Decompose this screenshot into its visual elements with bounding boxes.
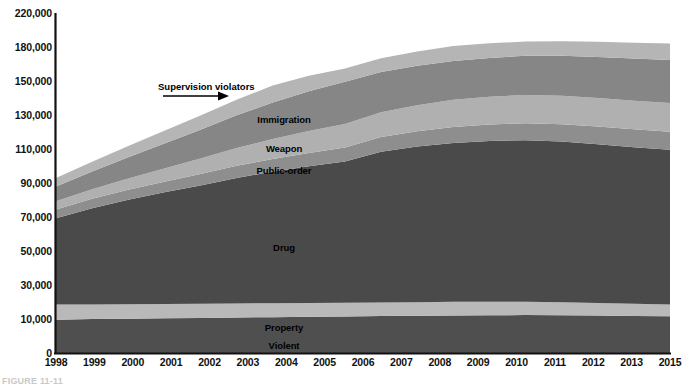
x-axis-tick-label: 2011 [535,357,575,368]
x-axis-tick-label: 2006 [343,357,383,368]
supervision-violators-annotation: Supervision violators [158,82,255,92]
series-label-violent: Violent [269,341,300,351]
area-band [56,315,670,353]
series-label-immigration: Immigration [257,115,310,125]
x-axis-tick-label: 2015 [650,357,686,368]
series-label-public-order: Public-order [257,166,312,176]
x-axis-tick-label: 2001 [151,357,191,368]
x-axis-tick-label: 2002 [190,357,230,368]
x-axis-tick-label: 2009 [458,357,498,368]
x-axis-tick-label: 1998 [36,357,76,368]
x-axis-tick-label: 1999 [74,357,114,368]
x-axis-tick-label: 2000 [113,357,153,368]
area-bands [56,41,670,353]
supervision-arrow [163,92,229,101]
series-label-drug: Drug [273,243,295,253]
series-label-weapon: Weapon [266,144,302,154]
x-axis-tick-label: 2012 [573,357,613,368]
x-axis-tick-label: 2008 [420,357,460,368]
x-axis-tick-label: 2013 [612,357,652,368]
x-axis-tick-label: 2007 [381,357,421,368]
x-axis-tick-label: 2005 [305,357,345,368]
x-axis-tick-label: 2010 [497,357,537,368]
x-axis-tick-label: 2003 [228,357,268,368]
x-axis-tick-label: 2004 [266,357,306,368]
series-label-property: Property [265,323,303,333]
figure-caption: FIGURE 11-11 [2,377,63,386]
